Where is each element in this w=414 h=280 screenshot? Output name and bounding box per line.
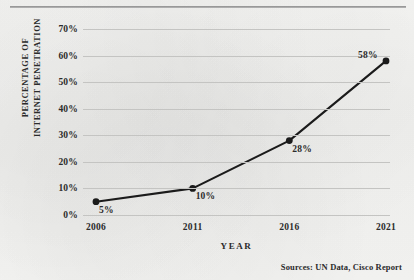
data-point-label: 28% bbox=[292, 144, 312, 154]
x-axis-tick-label: 2011 bbox=[183, 222, 203, 232]
x-axis-title: YEAR bbox=[83, 241, 390, 251]
sources-note: Sources: UN Data, Cisco Report bbox=[281, 262, 402, 272]
y-axis-tick-label: 20% bbox=[34, 157, 78, 167]
data-point-marker bbox=[383, 58, 390, 65]
gridline bbox=[83, 82, 390, 83]
x-axis-tick-label: 2021 bbox=[376, 222, 396, 232]
y-axis-tick-labels: 70%60%50%40%30%20%10%0% bbox=[30, 0, 78, 280]
y-axis-tick-label: 50% bbox=[34, 77, 78, 87]
internet-penetration-line-chart: PERCENTAGE OF INTERNET PENETRATION 70%60… bbox=[0, 0, 414, 280]
data-series-svg bbox=[83, 29, 390, 215]
x-axis-tick-labels: 2006201120162021 bbox=[83, 222, 390, 238]
y-axis-tick-label: 40% bbox=[34, 104, 78, 114]
gridline bbox=[83, 56, 390, 57]
y-axis-tick-label: 0% bbox=[34, 210, 78, 220]
x-axis-tick-label: 2016 bbox=[279, 222, 299, 232]
y-axis-tick-label: 30% bbox=[34, 130, 78, 140]
gridline bbox=[83, 29, 390, 30]
plot-area bbox=[83, 29, 390, 215]
data-point-label: 5% bbox=[99, 205, 114, 215]
gridline bbox=[83, 162, 390, 163]
data-point-label: 58% bbox=[358, 50, 378, 60]
gridline bbox=[83, 109, 390, 110]
data-point-label: 10% bbox=[196, 191, 216, 201]
x-axis-tick-label: 2006 bbox=[86, 222, 106, 232]
y-axis-tick-label: 60% bbox=[34, 51, 78, 61]
gridline bbox=[83, 188, 390, 189]
y-axis-tick-label: 70% bbox=[34, 24, 78, 34]
gridline bbox=[83, 215, 390, 216]
series-markers bbox=[93, 58, 390, 206]
gridline bbox=[83, 135, 390, 136]
y-axis-tick-label: 10% bbox=[34, 183, 78, 193]
